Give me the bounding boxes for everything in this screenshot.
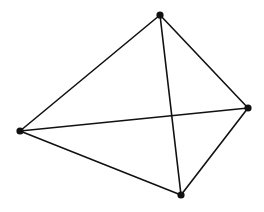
edge-top-right [160,15,248,108]
vertex-left [16,127,23,134]
edge-left-bottom [20,131,181,195]
vertex-right [244,104,251,111]
vertex-bottom [177,191,184,198]
edge-top-left [20,15,160,131]
k4-graph-diagram [0,0,264,212]
edge-left-right [20,108,248,131]
edge-right-bottom [181,108,248,195]
vertex-top [156,11,163,18]
edge-top-bottom [160,15,181,195]
graph-edges [20,15,248,195]
